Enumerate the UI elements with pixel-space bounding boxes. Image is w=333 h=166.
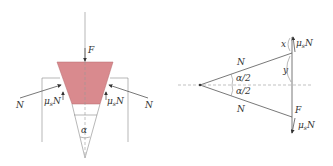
half-angle-upper-arc [231, 74, 233, 85]
friction-left-label: μsN [44, 96, 62, 107]
right-force-triangle: N N α/2 α/2 μsN x y F μsN [178, 37, 316, 133]
force-f-label-right: F [294, 105, 302, 115]
friction-right-label: μsN [107, 96, 125, 107]
friction-upper-arrow [293, 37, 295, 52]
right-wall [110, 78, 128, 142]
apex-point [199, 84, 201, 86]
half-angle-lower-arc [231, 85, 233, 96]
normal-right-label: N [144, 100, 154, 110]
y-label: y [282, 65, 289, 75]
wedge-force-diagram: F N N μsN μsN α N N α/2 α/2 μsN x y [0, 0, 333, 166]
left-wedge-diagram: F N N μsN μsN α [15, 12, 154, 158]
left-wall [42, 78, 60, 142]
half-angle-upper-label: α/2 [236, 73, 251, 83]
friction-lower-label: μsN [298, 120, 316, 131]
friction-upper-label: μsN [296, 38, 314, 49]
x-angle-arc [288, 38, 290, 51]
normal-left-label: N [15, 100, 25, 110]
normal-right-arrow [109, 85, 148, 98]
x-label: x [281, 39, 286, 49]
angle-alpha-label: α [81, 125, 87, 135]
friction-lower-arrow [292, 118, 295, 133]
normal-upper-label: N [236, 57, 246, 67]
normal-lower-label: N [236, 104, 246, 114]
half-angle-lower-label: α/2 [236, 86, 251, 96]
force-f-label: F [87, 45, 95, 55]
